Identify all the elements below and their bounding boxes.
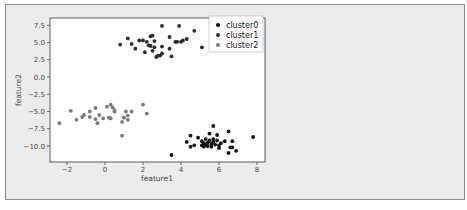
data-point-cluster2 (145, 112, 149, 116)
data-point-cluster2 (58, 121, 62, 125)
y-tick-label: −10.0 (24, 143, 45, 151)
x-tick-label: 0 (103, 166, 107, 174)
data-point-cluster2 (141, 103, 145, 107)
data-point-cluster1 (168, 35, 172, 39)
data-point-cluster1 (160, 45, 164, 49)
data-point-cluster2 (120, 134, 124, 138)
data-point-cluster0 (215, 133, 219, 137)
y-tick-label: 5.0 (34, 39, 45, 47)
data-point-cluster1 (160, 24, 164, 28)
data-point-cluster2 (124, 110, 128, 114)
data-point-cluster1 (153, 45, 157, 49)
x-tick-label: −2 (62, 166, 72, 174)
scatter-chart: 7.55.02.50.0−2.5−5.0−7.5−10.0 −202468 fe… (0, 0, 467, 210)
data-point-cluster1 (192, 29, 196, 33)
data-point-cluster0 (230, 139, 234, 143)
data-point-cluster1 (153, 39, 157, 43)
y-tick-label: −7.5 (28, 125, 45, 133)
data-point-cluster2 (126, 114, 130, 118)
data-point-cluster0 (192, 143, 196, 147)
y-tick-label: 7.5 (34, 22, 45, 30)
data-point-cluster0 (227, 151, 231, 155)
data-point-cluster2 (75, 118, 79, 122)
data-point-cluster1 (126, 37, 130, 41)
data-point-cluster1 (141, 39, 145, 43)
data-point-cluster0 (189, 134, 193, 138)
data-point-cluster2 (109, 117, 113, 121)
data-point-cluster2 (94, 117, 98, 121)
data-point-cluster0 (204, 137, 208, 141)
data-point-cluster2 (105, 105, 109, 109)
data-point-cluster0 (217, 146, 221, 150)
y-tick-label: −2.5 (28, 91, 45, 99)
data-point-cluster1 (177, 24, 181, 28)
data-point-cluster0 (206, 144, 210, 148)
data-point-cluster1 (181, 39, 185, 43)
data-point-cluster0 (223, 139, 227, 143)
data-point-cluster0 (227, 130, 231, 134)
y-axis: 7.55.02.50.0−2.5−5.0−7.5−10.0 (24, 22, 50, 151)
legend: cluster0 cluster1 cluster2 (209, 16, 263, 52)
x-tick-label: 4 (179, 166, 184, 174)
data-point-cluster1 (145, 40, 149, 44)
data-point-cluster1 (160, 52, 164, 56)
data-point-cluster0 (170, 153, 174, 157)
data-point-cluster0 (211, 124, 215, 128)
x-axis: −202468 (62, 162, 259, 174)
x-tick-label: 2 (141, 166, 145, 174)
data-point-cluster1 (200, 45, 204, 49)
data-point-cluster0 (185, 140, 189, 144)
legend-marker-cluster2 (216, 43, 220, 47)
data-point-cluster2 (94, 106, 98, 110)
data-point-cluster2 (88, 110, 92, 114)
data-point-cluster0 (215, 139, 219, 143)
data-point-cluster1 (168, 47, 172, 51)
data-point-cluster2 (88, 115, 92, 119)
data-point-cluster2 (130, 110, 134, 114)
legend-marker-cluster0 (216, 23, 220, 27)
legend-label-cluster2: cluster2 (226, 41, 258, 50)
y-axis-label: feature2 (14, 74, 23, 106)
data-point-cluster0 (251, 135, 255, 139)
x-tick-label: 6 (217, 166, 222, 174)
data-point-cluster2 (82, 113, 86, 117)
data-point-cluster1 (151, 34, 155, 38)
data-point-cluster0 (208, 139, 212, 143)
data-point-cluster1 (118, 43, 122, 47)
data-point-cluster1 (185, 37, 189, 41)
data-point-cluster2 (97, 113, 101, 117)
data-point-cluster2 (120, 120, 124, 124)
x-tick-label: 8 (255, 166, 259, 174)
data-point-cluster2 (96, 121, 100, 125)
data-point-cluster0 (230, 146, 234, 150)
data-point-cluster1 (170, 54, 174, 58)
y-tick-label: −5.0 (28, 108, 45, 116)
data-point-cluster1 (130, 42, 134, 46)
data-point-cluster2 (126, 118, 130, 122)
data-point-cluster1 (149, 44, 153, 48)
data-point-cluster2 (113, 108, 117, 112)
data-point-cluster2 (122, 116, 126, 120)
legend-label-cluster0: cluster0 (226, 21, 258, 30)
data-point-cluster2 (69, 109, 73, 113)
data-point-cluster1 (137, 39, 141, 43)
data-point-cluster0 (213, 143, 217, 147)
y-tick-label: 2.5 (34, 56, 45, 64)
data-point-cluster0 (234, 149, 238, 153)
data-point-cluster1 (143, 50, 147, 54)
data-point-cluster0 (196, 136, 200, 140)
data-point-cluster0 (189, 145, 193, 149)
data-point-cluster1 (175, 40, 179, 44)
legend-marker-cluster1 (216, 33, 220, 37)
legend-label-cluster1: cluster1 (226, 31, 258, 40)
data-point-cluster0 (219, 141, 223, 145)
data-point-cluster2 (101, 117, 105, 121)
x-axis-label: feature1 (141, 174, 173, 183)
data-point-cluster0 (210, 145, 214, 149)
y-tick-label: 0.0 (34, 74, 45, 82)
data-point-cluster1 (151, 49, 155, 53)
data-point-cluster1 (134, 47, 138, 51)
data-point-cluster0 (208, 132, 212, 136)
